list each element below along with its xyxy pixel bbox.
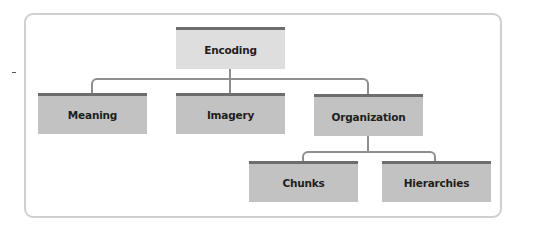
node-imagery: Imagery [176, 93, 285, 134]
node-hierarchies: Hierarchies [382, 161, 491, 202]
node-hierarchies-label: Hierarchies [404, 177, 469, 189]
node-encoding: Encoding [176, 27, 285, 69]
node-chunks: Chunks [249, 161, 358, 202]
node-chunks-label: Chunks [282, 177, 324, 189]
node-organization-label: Organization [332, 111, 406, 123]
node-meaning: Meaning [38, 93, 147, 134]
stray-dash-mark [12, 72, 16, 73]
node-encoding-label: Encoding [204, 44, 257, 56]
node-imagery-label: Imagery [207, 109, 254, 121]
node-meaning-label: Meaning [68, 109, 117, 121]
node-organization: Organization [314, 94, 423, 136]
